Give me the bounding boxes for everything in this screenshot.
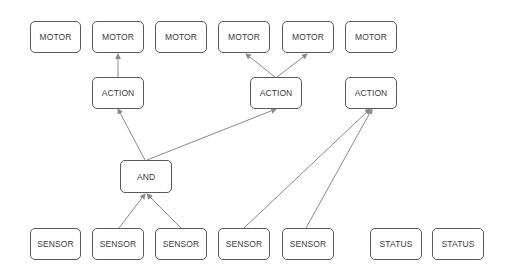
node-sensor-4[interactable]: SENSOR bbox=[218, 228, 270, 260]
node-label: MOTOR bbox=[102, 32, 134, 42]
node-motor-2[interactable]: MOTOR bbox=[92, 21, 144, 53]
node-sensor-1[interactable]: SENSOR bbox=[30, 228, 81, 260]
node-sensor-2[interactable]: SENSOR bbox=[92, 228, 144, 260]
node-motor-1[interactable]: MOTOR bbox=[30, 21, 81, 53]
node-sensor-5[interactable]: SENSOR bbox=[282, 228, 334, 260]
node-label: STATUS bbox=[380, 239, 413, 249]
diagram-canvas: MOTOR MOTOR MOTOR MOTOR MOTOR MOTOR ACTI… bbox=[0, 0, 511, 273]
node-label: MOTOR bbox=[292, 32, 324, 42]
node-label: MOTOR bbox=[40, 32, 72, 42]
node-motor-6[interactable]: MOTOR bbox=[345, 21, 397, 53]
node-label: SENSOR bbox=[226, 239, 263, 249]
node-label: ACTION bbox=[355, 88, 388, 98]
node-motor-5[interactable]: MOTOR bbox=[282, 21, 334, 53]
node-sensor-3[interactable]: SENSOR bbox=[155, 228, 207, 260]
node-action-2[interactable]: ACTION bbox=[250, 77, 302, 109]
node-label: MOTOR bbox=[165, 32, 197, 42]
node-label: ACTION bbox=[102, 88, 135, 98]
node-status-1[interactable]: STATUS bbox=[370, 228, 422, 260]
node-label: MOTOR bbox=[355, 32, 387, 42]
node-label: SENSOR bbox=[290, 239, 327, 249]
node-label: ACTION bbox=[260, 88, 293, 98]
node-label: AND bbox=[137, 172, 155, 182]
edge-sensor3-to-and1 bbox=[147, 194, 181, 228]
node-action-1[interactable]: ACTION bbox=[92, 77, 144, 109]
node-label: MOTOR bbox=[228, 32, 260, 42]
node-label: SENSOR bbox=[37, 239, 74, 249]
node-label: SENSOR bbox=[100, 239, 137, 249]
node-status-2[interactable]: STATUS bbox=[432, 228, 484, 260]
node-action-3[interactable]: ACTION bbox=[345, 77, 397, 109]
edge-sensor2-to-and1 bbox=[119, 194, 145, 228]
edge-action2-to-motor5 bbox=[277, 54, 307, 77]
node-and[interactable]: AND bbox=[120, 160, 172, 193]
node-label: SENSOR bbox=[163, 239, 200, 249]
node-motor-3[interactable]: MOTOR bbox=[155, 21, 207, 53]
node-motor-4[interactable]: MOTOR bbox=[218, 21, 270, 53]
edge-and1-to-action1 bbox=[118, 109, 145, 160]
edge-and1-to-action2 bbox=[147, 109, 276, 160]
node-label: STATUS bbox=[442, 239, 475, 249]
edge-sensor5-to-action3 bbox=[306, 109, 372, 228]
edge-action2-to-motor4 bbox=[246, 54, 275, 77]
edge-sensor4-to-action3 bbox=[244, 109, 370, 228]
